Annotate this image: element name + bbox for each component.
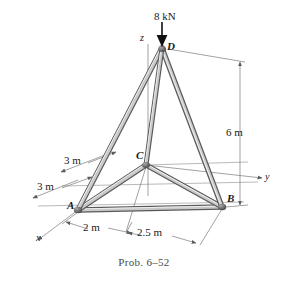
member-BD	[161, 47, 222, 207]
dimension-label-3m-upper: 3 m	[64, 155, 81, 166]
load-label: 8 kN	[154, 11, 176, 22]
axis-label-z: z	[140, 33, 144, 43]
joint-label-D: D	[167, 41, 175, 52]
truss-diagram	[0, 0, 288, 281]
joint-C-node	[142, 162, 150, 168]
dimension-label-6m: 6 m	[226, 127, 243, 138]
joint-label-C: C	[136, 150, 143, 161]
joint-label-B: B	[227, 193, 234, 204]
figure-page: 8 kN z y x D C A B 6 m 3 m 3 m 2 m 2.5 m…	[0, 0, 288, 281]
dimension-label-2m: 2 m	[83, 222, 100, 233]
dimension-label-2p5m: 2.5 m	[137, 227, 162, 238]
x-axis-line	[38, 210, 78, 240]
joint-B-node	[218, 204, 226, 210]
joint-label-A: A	[67, 200, 74, 211]
member-AB	[78, 206, 222, 210]
axis-label-y: y	[265, 172, 269, 182]
figure-caption: Prob. 6–52	[0, 256, 288, 268]
load-arrow-8kn	[157, 22, 168, 47]
dimension-label-3m-lower: 3 m	[37, 181, 54, 192]
joint-A-node	[74, 207, 82, 213]
axis-label-x: x	[36, 233, 40, 243]
